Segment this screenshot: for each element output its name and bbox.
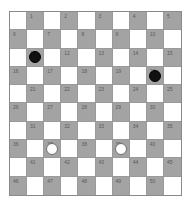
board-square-light	[44, 158, 61, 176]
board-square-dark[interactable]: 4	[130, 12, 147, 30]
board-square-dark[interactable]: 10	[147, 30, 164, 48]
board-square-light	[44, 12, 61, 30]
board-square-dark[interactable]: 42	[61, 158, 78, 176]
board-square-dark[interactable]: 48	[78, 177, 95, 195]
board-square-light	[27, 67, 44, 85]
board-square-dark[interactable]: 24	[130, 85, 147, 103]
board-square-dark[interactable]: 3	[96, 12, 113, 30]
board-square-dark[interactable]: 7	[44, 30, 61, 48]
square-number: 2	[64, 14, 67, 19]
board-square-dark[interactable]: 46	[10, 177, 27, 195]
board-square-light	[164, 103, 181, 121]
board-square-dark[interactable]: 21	[27, 85, 44, 103]
board-square-dark[interactable]: 44	[130, 158, 147, 176]
square-number: 43	[99, 160, 105, 165]
board-square-light	[10, 122, 27, 140]
board-square-dark[interactable]: 25	[164, 85, 181, 103]
board-square-dark[interactable]: 40	[147, 140, 164, 158]
board-square-dark[interactable]: 15	[164, 49, 181, 67]
board-square-dark[interactable]: 27	[44, 103, 61, 121]
board-square-light	[96, 103, 113, 121]
board-square-dark[interactable]: 47	[44, 177, 61, 195]
board-square-dark[interactable]: 30	[147, 103, 164, 121]
board-square-light	[10, 85, 27, 103]
board-square-dark[interactable]: 50	[147, 177, 164, 195]
board-square-light	[113, 12, 130, 30]
board-square-dark[interactable]: 16	[10, 67, 27, 85]
board-square-dark[interactable]: 33	[96, 122, 113, 140]
board-square-light	[164, 177, 181, 195]
board-square-dark[interactable]: 38	[78, 140, 95, 158]
square-number: 34	[133, 124, 139, 129]
board-square-dark[interactable]: 41	[27, 158, 44, 176]
board-square-light	[27, 30, 44, 48]
board-square-dark[interactable]: 2	[61, 12, 78, 30]
board-square-dark[interactable]: 31	[27, 122, 44, 140]
board-square-dark[interactable]: 9	[113, 30, 130, 48]
board-square-light	[61, 103, 78, 121]
square-number: 15	[167, 51, 173, 56]
square-number: 8	[81, 32, 84, 37]
board-square-dark[interactable]: 5	[164, 12, 181, 30]
board-square-light	[130, 30, 147, 48]
board-square-light	[10, 158, 27, 176]
board-square-dark[interactable]: 17	[44, 67, 61, 85]
board-square-dark[interactable]: 39	[113, 140, 130, 158]
board-square-dark[interactable]: 8	[78, 30, 95, 48]
board-square-light	[27, 177, 44, 195]
board-square-dark[interactable]: 22	[61, 85, 78, 103]
board-square-light	[27, 140, 44, 158]
board-square-dark[interactable]: 13	[96, 49, 113, 67]
square-number: 41	[30, 160, 36, 165]
square-number: 4	[133, 14, 136, 19]
black-checker-piece[interactable]	[29, 51, 41, 63]
board-square-light	[130, 140, 147, 158]
board-square-light	[78, 158, 95, 176]
board-square-dark[interactable]: 18	[78, 67, 95, 85]
board-square-dark[interactable]: 12	[61, 49, 78, 67]
board-square-light	[130, 103, 147, 121]
white-checker-piece[interactable]	[46, 143, 58, 155]
black-checker-piece[interactable]	[149, 70, 161, 82]
board-square-dark[interactable]: 26	[10, 103, 27, 121]
board-square-dark[interactable]: 32	[61, 122, 78, 140]
square-number: 26	[13, 105, 19, 110]
board-square-light	[164, 30, 181, 48]
white-checker-piece[interactable]	[115, 143, 127, 155]
board-square-light	[113, 85, 130, 103]
board-square-dark[interactable]: 37	[44, 140, 61, 158]
board-square-light	[130, 177, 147, 195]
board-square-light	[96, 177, 113, 195]
board-square-dark[interactable]: 28	[78, 103, 95, 121]
square-number: 17	[47, 69, 53, 74]
board-square-dark[interactable]: 1	[27, 12, 44, 30]
board-square-dark[interactable]: 6	[10, 30, 27, 48]
square-number: 28	[81, 105, 87, 110]
square-number: 14	[133, 51, 139, 56]
square-number: 47	[47, 179, 53, 184]
board-square-dark[interactable]: 11	[27, 49, 44, 67]
square-number: 45	[167, 160, 173, 165]
board-square-dark[interactable]: 34	[130, 122, 147, 140]
square-number: 32	[64, 124, 70, 129]
board-square-dark[interactable]: 23	[96, 85, 113, 103]
board-square-dark[interactable]: 19	[113, 67, 130, 85]
board-square-dark[interactable]: 36	[10, 140, 27, 158]
board-square-dark[interactable]: 20	[147, 67, 164, 85]
board-square-light	[10, 12, 27, 30]
board-square-light	[61, 30, 78, 48]
board-square-light	[44, 122, 61, 140]
board-square-dark[interactable]: 35	[164, 122, 181, 140]
board-square-dark[interactable]: 14	[130, 49, 147, 67]
board-square-dark[interactable]: 45	[164, 158, 181, 176]
square-number: 29	[116, 105, 122, 110]
square-number: 6	[13, 32, 16, 37]
board-square-light	[96, 140, 113, 158]
board-square-dark[interactable]: 29	[113, 103, 130, 121]
square-number: 12	[64, 51, 70, 56]
board-square-dark[interactable]: 43	[96, 158, 113, 176]
board-square-dark[interactable]: 49	[113, 177, 130, 195]
board-square-light	[61, 140, 78, 158]
square-number: 22	[64, 87, 70, 92]
square-number: 40	[150, 142, 156, 147]
